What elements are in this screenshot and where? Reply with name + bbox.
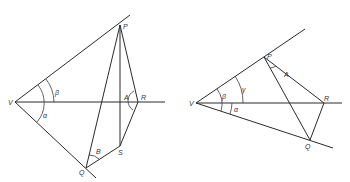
left-label-r: R — [141, 94, 146, 101]
right-label-alpha: α — [234, 106, 239, 113]
right-label-beta: β — [221, 93, 226, 101]
left-ray-vq — [15, 102, 96, 178]
left-segment-pr — [120, 25, 138, 102]
right-arc-alpha — [230, 103, 232, 114]
right-label-v: V — [189, 100, 195, 107]
left-arc-beta — [46, 79, 54, 102]
right-label-a: A — [283, 71, 289, 78]
right-label-gamma: γ — [242, 86, 246, 94]
right-label-r: R — [324, 95, 329, 102]
left-diagram: V P A R S Q β α B — [8, 15, 165, 178]
left-arc-at-q — [89, 155, 99, 159]
left-label-v: V — [8, 99, 14, 106]
right-segment-pr — [264, 57, 324, 103]
left-label-b-at-q: B — [96, 148, 101, 155]
right-ray-vq — [196, 103, 333, 148]
left-ray-vp — [15, 15, 130, 102]
left-segment-pq — [86, 25, 120, 168]
geometry-figure: V P A R S Q β α B V P R Q A β γ α — [0, 0, 350, 182]
left-label-alpha: α — [43, 112, 48, 119]
left-label-beta: β — [54, 89, 59, 97]
left-label-a: A — [123, 94, 129, 101]
right-segment-rq — [310, 103, 324, 140]
left-arc-at-r — [128, 91, 134, 110]
left-label-p: P — [123, 23, 128, 30]
right-label-p: P — [267, 53, 272, 60]
right-diagram: V P R Q A β γ α — [189, 29, 342, 151]
right-ray-vp — [196, 29, 305, 103]
left-label-q: Q — [79, 169, 85, 177]
left-segment-qs — [86, 146, 120, 168]
left-segment-rs — [120, 102, 138, 146]
right-label-q: Q — [305, 143, 311, 151]
left-label-s: S — [118, 149, 123, 156]
right-arc-at-p — [270, 66, 276, 68]
